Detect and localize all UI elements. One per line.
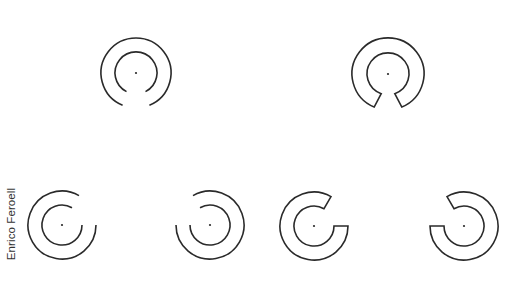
- inner-arc: [115, 52, 157, 92]
- center-dot: [135, 72, 137, 74]
- figure-bottom-3-closed-ring: [280, 192, 348, 260]
- figure-bottom-2-open-arcs: [176, 191, 244, 259]
- outer-arc: [101, 38, 171, 105]
- figure-bottom-1-open-arcs: [28, 191, 96, 259]
- figure-bottom-4-closed-ring: [430, 192, 498, 260]
- figure-top-left-open-arcs: [101, 38, 171, 105]
- illusion-diagram: [0, 0, 528, 299]
- ring-outline: [352, 38, 424, 107]
- center-dot: [209, 224, 211, 226]
- center-dot: [313, 225, 315, 227]
- figure-top-right-closed-ring: [352, 38, 424, 107]
- author-label: Enrico Feroell: [5, 188, 17, 260]
- center-dot: [61, 224, 63, 226]
- center-dot: [387, 73, 389, 75]
- center-dot: [463, 225, 465, 227]
